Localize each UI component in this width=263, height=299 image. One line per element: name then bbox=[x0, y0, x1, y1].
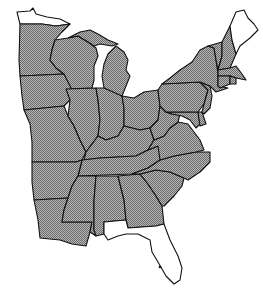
state-connecticut bbox=[218, 76, 230, 88]
state-iowa bbox=[20, 74, 72, 110]
state-maine bbox=[230, 10, 258, 54]
eastern-us-map bbox=[0, 0, 263, 299]
state-minnesota-north bbox=[17, 8, 70, 26]
state-delaware bbox=[198, 112, 206, 126]
state-florida bbox=[104, 220, 182, 284]
state-pennsylvania bbox=[158, 82, 208, 112]
state-rhode-island bbox=[230, 76, 236, 84]
florida-marker bbox=[159, 266, 162, 269]
